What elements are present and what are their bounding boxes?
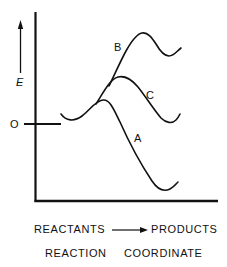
curve-c — [96, 77, 180, 123]
products-label: PRODUCTS — [151, 224, 218, 235]
curve-a-label: A — [134, 133, 141, 144]
curve-c-label: C — [146, 90, 154, 101]
energy-axis-label: E — [16, 77, 23, 88]
zero-energy-label: O — [10, 119, 19, 130]
reactants-label: REACTANTS — [34, 224, 105, 235]
reaction-coordinate-title-1: REACTION — [45, 248, 107, 259]
reaction-coordinate-title-2: COORDINATE — [124, 248, 203, 259]
curve-a — [61, 100, 178, 190]
direction-arrow-icon — [111, 225, 151, 235]
energy-arrow-icon — [18, 20, 23, 73]
energy-diagram: E O B C A REACTANTS PRODUCTS REACTION CO… — [0, 0, 227, 267]
curve-b-label: B — [114, 42, 121, 53]
